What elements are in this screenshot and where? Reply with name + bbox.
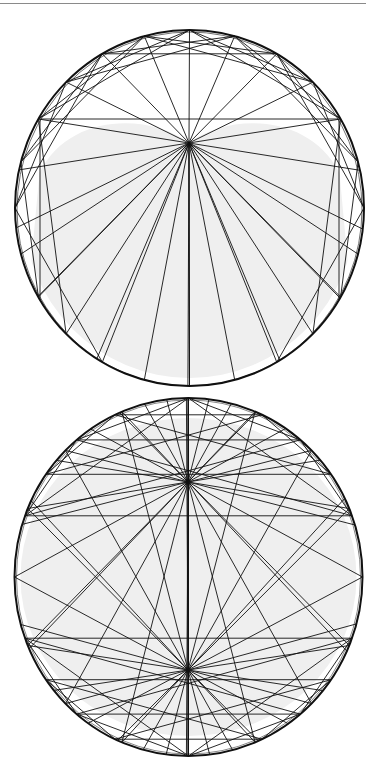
- bottom-circle-figure: [15, 398, 363, 756]
- chord-line: [38, 36, 144, 119]
- chord-line: [66, 36, 235, 82]
- chord-line: [144, 36, 313, 82]
- caustic-figure: [0, 0, 384, 770]
- chord-line: [235, 36, 341, 119]
- caustic-diagram-svg: [0, 0, 384, 770]
- chord-line: [189, 143, 190, 386]
- chord-line: [66, 30, 189, 82]
- top-circle-figure: [15, 30, 364, 388]
- chord-line: [190, 30, 313, 82]
